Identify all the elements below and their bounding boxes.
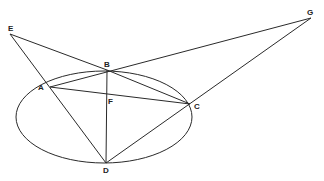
segment-gd <box>106 18 311 163</box>
label-d: D <box>103 166 109 175</box>
segment-bd <box>106 70 107 163</box>
label-a: A <box>38 83 44 92</box>
segment-eb <box>10 34 107 70</box>
label-b: B <box>104 60 110 69</box>
label-e: E <box>8 24 14 33</box>
geometry-diagram: E B G A F C D <box>0 0 324 181</box>
segment-ag <box>50 18 311 87</box>
label-f: F <box>108 97 113 106</box>
label-c: C <box>194 102 200 111</box>
label-g: G <box>307 8 313 17</box>
segment-ed <box>10 34 106 163</box>
